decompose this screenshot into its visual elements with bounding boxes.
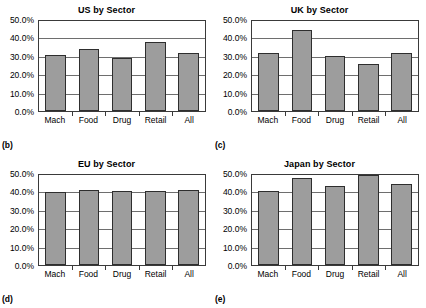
y-axis: 0.0%10.0%20.0%30.0%40.0%50.0% [213, 174, 250, 266]
bar-slot [385, 21, 418, 111]
x-tick-label: All [385, 270, 419, 279]
y-tick-label: 50.0% [10, 170, 34, 179]
plot-area [38, 20, 206, 112]
x-tick-label: Mach [251, 270, 285, 279]
y-tick-label: 40.0% [223, 188, 247, 197]
chart-title: Japan by Sector [213, 159, 426, 169]
plot-area [251, 20, 419, 112]
bars-layer [39, 21, 205, 111]
bar-slot [105, 175, 138, 265]
y-tick-label: 20.0% [223, 71, 247, 80]
y-tick-label: 30.0% [223, 207, 247, 216]
x-tick-label: Food [72, 270, 106, 279]
y-tick-label: 20.0% [223, 225, 247, 234]
bar-slot [352, 21, 385, 111]
y-tick-label: 50.0% [10, 16, 34, 25]
bar-slot [172, 175, 205, 265]
bar-mach [258, 53, 279, 111]
bar-drug [325, 186, 346, 265]
x-tick-label: Retail [352, 116, 386, 125]
x-axis-labels: MachFoodDrugRetailAll [251, 270, 419, 286]
bar-slot [318, 175, 351, 265]
bar-slot [252, 21, 285, 111]
x-tick-label: Drug [318, 116, 352, 125]
y-tick-label: 30.0% [223, 53, 247, 62]
plot-wrapper: 0.0%10.0%20.0%30.0%40.0%50.0%MachFoodDru… [213, 20, 426, 132]
bar-slot [72, 21, 105, 111]
y-tick-label: 0.0% [15, 262, 34, 271]
bar-slot [39, 175, 72, 265]
panel-label: (e) [215, 294, 225, 304]
bar-all [391, 53, 412, 112]
plot-wrapper: 0.0%10.0%20.0%30.0%40.0%50.0%MachFoodDru… [0, 174, 213, 286]
x-tick-label: Retail [352, 270, 386, 279]
bar-slot [105, 21, 138, 111]
y-tick-label: 50.0% [223, 170, 247, 179]
x-tick-label: Drug [105, 270, 139, 279]
x-axis-labels: MachFoodDrugRetailAll [38, 116, 206, 132]
bar-slot [285, 175, 318, 265]
y-tick-label: 50.0% [223, 16, 247, 25]
y-tick-label: 0.0% [15, 108, 34, 117]
panel-label: (c) [215, 140, 225, 150]
bar-food [79, 49, 100, 111]
bar-food [292, 30, 313, 111]
y-axis: 0.0%10.0%20.0%30.0%40.0%50.0% [0, 20, 37, 112]
bar-slot [318, 21, 351, 111]
y-tick-label: 30.0% [10, 207, 34, 216]
x-tick-label: Food [285, 270, 319, 279]
y-tick-label: 10.0% [10, 243, 34, 252]
y-tick-label: 0.0% [228, 108, 247, 117]
plot-wrapper: 0.0%10.0%20.0%30.0%40.0%50.0%MachFoodDru… [0, 20, 213, 132]
y-tick-label: 20.0% [10, 71, 34, 80]
bars-layer [39, 175, 205, 265]
bar-all [178, 53, 199, 111]
x-tick-label: Food [285, 116, 319, 125]
plot-area [251, 174, 419, 266]
chart-title: US by Sector [0, 5, 213, 15]
bar-food [79, 190, 100, 265]
bar-food [292, 178, 313, 265]
bar-all [178, 190, 199, 265]
y-tick-label: 0.0% [228, 262, 247, 271]
bars-layer [252, 175, 418, 265]
x-tick-label: Mach [251, 116, 285, 125]
plot-wrapper: 0.0%10.0%20.0%30.0%40.0%50.0%MachFoodDru… [213, 174, 426, 286]
bar-retail [145, 191, 166, 265]
bar-slot [385, 175, 418, 265]
x-axis-labels: MachFoodDrugRetailAll [38, 270, 206, 286]
bar-mach [258, 191, 279, 265]
bar-slot [352, 175, 385, 265]
y-tick-label: 10.0% [223, 243, 247, 252]
x-tick-label: Drug [318, 270, 352, 279]
bar-slot [72, 175, 105, 265]
y-tick-label: 30.0% [10, 53, 34, 62]
x-tick-label: Retail [139, 270, 173, 279]
bar-slot [139, 175, 172, 265]
bar-drug [325, 56, 346, 111]
chart-panel-uk: UK by Sector0.0%10.0%20.0%30.0%40.0%50.0… [213, 0, 426, 154]
y-tick-label: 40.0% [10, 188, 34, 197]
bar-retail [145, 42, 166, 111]
x-axis-labels: MachFoodDrugRetailAll [251, 116, 419, 132]
y-tick-label: 40.0% [10, 34, 34, 43]
bars-layer [252, 21, 418, 111]
chart-title: UK by Sector [213, 5, 426, 15]
bar-mach [45, 55, 66, 111]
bar-all [391, 184, 412, 265]
x-tick-label: Drug [105, 116, 139, 125]
plot-area [38, 174, 206, 266]
bar-slot [172, 21, 205, 111]
y-tick-label: 10.0% [10, 89, 34, 98]
bar-slot [39, 21, 72, 111]
bar-drug [112, 191, 133, 265]
y-axis: 0.0%10.0%20.0%30.0%40.0%50.0% [0, 174, 37, 266]
x-tick-label: All [172, 270, 206, 279]
bar-retail [358, 64, 379, 111]
chart-panel-us: US by Sector0.0%10.0%20.0%30.0%40.0%50.0… [0, 0, 213, 154]
y-tick-label: 10.0% [223, 89, 247, 98]
x-tick-label: Food [72, 116, 106, 125]
figure-panel-grid: US by Sector0.0%10.0%20.0%30.0%40.0%50.0… [0, 0, 426, 308]
x-tick-label: All [172, 116, 206, 125]
chart-panel-eu: EU by Sector0.0%10.0%20.0%30.0%40.0%50.0… [0, 154, 213, 308]
